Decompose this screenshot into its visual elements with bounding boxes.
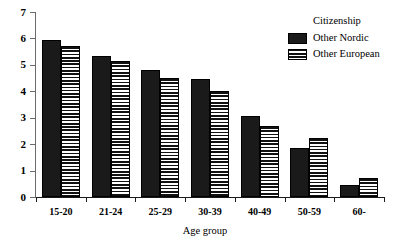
legend-item-other-european: Other European bbox=[288, 49, 380, 60]
bar-other-nordic bbox=[191, 79, 210, 197]
bar-other-european bbox=[210, 91, 229, 197]
x-axis-title: Age group bbox=[0, 226, 410, 237]
x-axis-tick-label: 15-20 bbox=[36, 207, 86, 217]
bar-other-nordic bbox=[92, 56, 111, 197]
bar-group bbox=[141, 12, 179, 197]
x-axis-tick-label: 21-24 bbox=[86, 207, 136, 217]
y-axis-tick-label: 1 bbox=[0, 165, 26, 176]
bar-other-nordic bbox=[141, 70, 160, 197]
x-axis-tick bbox=[235, 197, 236, 202]
x-axis-tick bbox=[135, 197, 136, 202]
chart-legend: Citizenship Other Nordic Other European bbox=[288, 16, 380, 65]
x-axis-tick-label: 50-59 bbox=[285, 207, 335, 217]
bar-group bbox=[92, 12, 130, 197]
x-axis-tick bbox=[334, 197, 335, 202]
x-axis-tick-label: 40-49 bbox=[235, 207, 285, 217]
y-axis-tick-label: 0 bbox=[0, 192, 26, 203]
bar-other-european bbox=[309, 138, 328, 197]
y-axis-tick-label: 7 bbox=[0, 7, 26, 18]
bar-other-european bbox=[160, 78, 179, 197]
bar-other-european bbox=[359, 178, 378, 197]
bar-other-european bbox=[61, 46, 80, 197]
bar-other-nordic bbox=[241, 116, 260, 197]
x-axis-tick-label: 25-29 bbox=[135, 207, 185, 217]
bar-chart-figure: 01234567 15-2021-2425-2930-3940-4950-596… bbox=[0, 0, 410, 244]
bar-group bbox=[191, 12, 229, 197]
x-axis-tick bbox=[86, 197, 87, 202]
y-axis-tick-label: 6 bbox=[0, 33, 26, 44]
y-axis-tick-label: 4 bbox=[0, 86, 26, 97]
x-axis-tick bbox=[36, 197, 37, 202]
horizontal-stripe-swatch-icon bbox=[288, 49, 307, 60]
bar-other-nordic bbox=[290, 148, 309, 197]
x-axis-tick bbox=[185, 197, 186, 202]
x-axis-tick bbox=[384, 197, 385, 202]
solid-black-swatch-icon bbox=[288, 33, 307, 44]
x-axis-tick bbox=[285, 197, 286, 202]
y-axis-tick-label: 2 bbox=[0, 139, 26, 150]
x-axis-tick-label: 60- bbox=[334, 207, 384, 217]
bar-other-european bbox=[260, 126, 279, 197]
legend-label-other-nordic: Other Nordic bbox=[313, 33, 369, 44]
y-axis-tick-label: 5 bbox=[0, 59, 26, 70]
x-axis-line bbox=[35, 197, 384, 198]
x-axis-tick-label: 30-39 bbox=[185, 207, 235, 217]
bar-other-nordic bbox=[340, 185, 359, 197]
y-axis-tick-label: 3 bbox=[0, 112, 26, 123]
bar-group bbox=[241, 12, 279, 197]
bar-other-nordic bbox=[42, 40, 61, 197]
bar-group bbox=[42, 12, 80, 197]
legend-title: Citizenship bbox=[288, 16, 380, 27]
legend-label-other-european: Other European bbox=[313, 49, 380, 60]
legend-item-other-nordic: Other Nordic bbox=[288, 33, 380, 44]
bar-other-european bbox=[111, 61, 130, 197]
